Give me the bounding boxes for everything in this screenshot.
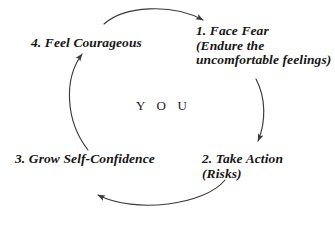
step-2-line-2: (Risks): [202, 167, 283, 182]
arrow-3-to-4: [69, 54, 88, 150]
step-1-line-3: uncomfortable feelings): [196, 53, 331, 68]
confidence-cycle-diagram: 1. Face Fear (Endure the uncomfortable f…: [0, 0, 335, 225]
step-1-line-1: 1. Face Fear: [196, 24, 331, 39]
step-2-line-1: 2. Take Action: [202, 152, 283, 167]
step-2-take-action: 2. Take Action (Risks): [202, 152, 283, 181]
step-4-line-1: 4. Feel Courageous: [31, 36, 142, 51]
step-3-line-1: 3. Grow Self-Confidence: [15, 152, 155, 167]
arrow-2-to-3: [98, 180, 225, 205]
step-3-grow-self-confidence: 3. Grow Self-Confidence: [15, 152, 155, 167]
step-4-feel-courageous: 4. Feel Courageous: [31, 36, 142, 51]
arrow-1-to-2: [256, 79, 264, 141]
step-1-face-fear: 1. Face Fear (Endure the uncomfortable f…: [196, 24, 331, 68]
step-1-line-2: (Endure the: [196, 39, 331, 54]
arrow-4-to-1: [104, 9, 203, 24]
center-you-label: Y O U: [136, 98, 191, 114]
